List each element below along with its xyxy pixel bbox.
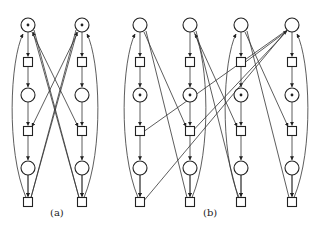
token bbox=[81, 24, 84, 27]
place bbox=[21, 88, 35, 102]
transition bbox=[78, 127, 87, 136]
transition bbox=[78, 198, 87, 207]
place bbox=[183, 18, 197, 32]
token bbox=[291, 94, 294, 97]
arc bbox=[145, 30, 288, 200]
token bbox=[189, 94, 192, 97]
transition bbox=[186, 198, 195, 207]
place bbox=[234, 161, 248, 175]
place bbox=[234, 18, 248, 32]
transition bbox=[78, 58, 87, 67]
transition bbox=[237, 127, 246, 136]
place bbox=[133, 18, 147, 32]
token bbox=[139, 94, 142, 97]
place bbox=[133, 161, 147, 175]
arc bbox=[194, 32, 237, 127]
transition bbox=[237, 58, 246, 67]
transition bbox=[288, 58, 297, 67]
subfigure-label-a: (a) bbox=[50, 207, 64, 218]
place bbox=[75, 161, 89, 175]
petri-net-diagram: (a) (b) bbox=[0, 0, 316, 229]
token bbox=[240, 94, 243, 97]
transition bbox=[186, 58, 195, 67]
arcs bbox=[12, 30, 308, 200]
place bbox=[285, 161, 299, 175]
place bbox=[183, 161, 197, 175]
transition bbox=[24, 198, 33, 207]
place bbox=[21, 161, 35, 175]
transition bbox=[24, 58, 33, 67]
transition bbox=[136, 198, 145, 207]
token bbox=[27, 24, 30, 27]
place bbox=[285, 18, 299, 32]
transition bbox=[288, 198, 297, 207]
transition bbox=[24, 127, 33, 136]
transition bbox=[186, 127, 195, 136]
arc bbox=[144, 32, 186, 127]
transition bbox=[136, 127, 145, 136]
nodes bbox=[21, 18, 299, 207]
subfigure-label-b: (b) bbox=[203, 207, 217, 218]
transition bbox=[288, 127, 297, 136]
place bbox=[75, 88, 89, 102]
transition bbox=[237, 198, 246, 207]
transition bbox=[136, 58, 145, 67]
